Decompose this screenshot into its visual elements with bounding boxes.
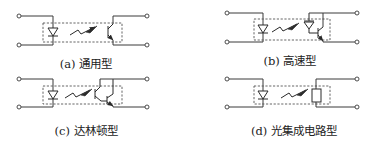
output-terminal-top xyxy=(145,77,149,81)
photodiode-icon xyxy=(304,13,318,33)
input-terminal-top xyxy=(225,11,229,15)
caption-c: (c) 达林顿型 xyxy=(54,122,117,138)
light-emission-arrow-icon xyxy=(281,89,308,98)
input-terminal-top xyxy=(17,77,21,81)
output-transistor-icon xyxy=(318,27,323,41)
input-wires xyxy=(229,13,263,42)
input-terminal-bottom xyxy=(225,40,229,44)
photo-ic-block-icon xyxy=(312,89,321,102)
output-terminal-bottom xyxy=(145,105,149,109)
input-wires xyxy=(21,79,53,107)
input-terminal-bottom xyxy=(17,105,21,109)
input-terminal-bottom xyxy=(225,105,229,109)
phototransistor-icon xyxy=(108,24,113,40)
output-terminal-bottom xyxy=(355,105,359,109)
input-terminal-top xyxy=(17,14,21,18)
output-terminal-top xyxy=(145,14,149,18)
led-diode-icon xyxy=(48,91,58,99)
input-wires xyxy=(21,16,53,45)
led-diode-icon xyxy=(258,25,268,33)
input-wires xyxy=(229,79,263,107)
led-diode-icon xyxy=(258,91,268,99)
output-wires xyxy=(113,16,145,45)
panel-a-general-optocoupler xyxy=(17,14,149,47)
panel-d-photo-ic-optocoupler xyxy=(225,77,359,109)
caption-d: (d) 光集成电路型 xyxy=(251,122,337,138)
output-terminal-top xyxy=(355,11,359,15)
caption-a: (a) 通用型 xyxy=(60,55,113,71)
darlington-transistor-pair-icon xyxy=(95,79,113,106)
light-emission-arrow-icon xyxy=(65,89,92,98)
output-wires xyxy=(316,79,355,107)
input-terminal-bottom xyxy=(17,43,21,47)
light-emission-arrow-icon xyxy=(70,26,97,35)
output-terminal-bottom xyxy=(145,43,149,47)
input-terminal-top xyxy=(225,77,229,81)
light-emission-arrow-icon xyxy=(272,23,299,32)
output-wires xyxy=(309,13,355,42)
output-terminal-bottom xyxy=(355,40,359,44)
led-diode-icon xyxy=(48,28,58,36)
panel-b-high-speed-optocoupler xyxy=(225,11,359,44)
panel-c-darlington-optocoupler xyxy=(17,77,149,109)
caption-b: (b) 高速型 xyxy=(264,52,317,68)
output-terminal-top xyxy=(355,77,359,81)
